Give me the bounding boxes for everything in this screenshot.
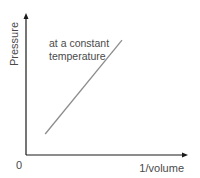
x-axis-label: 1/volume — [139, 162, 184, 174]
x-axis-arrow-icon — [182, 153, 188, 158]
y-axis-label: Pressure — [8, 22, 20, 66]
origin-label: 0 — [16, 159, 22, 171]
annotation-line-1: at a constant — [49, 37, 109, 49]
chart: Pressure 0 1/volume at a constant temper… — [0, 0, 200, 178]
annotation-line-2: temperature — [49, 50, 106, 62]
y-axis-arrow-icon — [24, 13, 29, 19]
